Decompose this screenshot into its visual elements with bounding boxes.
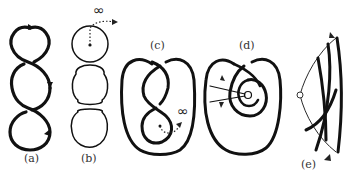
arrow-icon — [220, 75, 225, 81]
panel-e-label: (e) — [301, 158, 316, 171]
infinity-symbol: ∞ — [177, 103, 189, 119]
arrow-icon — [44, 130, 50, 136]
hollow-point-icon — [245, 92, 252, 99]
panel-d: (d) — [205, 39, 281, 154]
panel-d-label: (d) — [239, 39, 255, 52]
panel-e: (e) — [297, 32, 341, 171]
panel-a-label: (a) — [24, 152, 39, 165]
arrow-icon — [329, 32, 335, 38]
panel-a: (a) — [10, 24, 53, 165]
panel-c-label: (c) — [150, 39, 165, 52]
arrow-icon — [219, 102, 224, 108]
infinity-symbol: ∞ — [93, 2, 105, 18]
panel-c: ∞ (c) — [122, 39, 195, 155]
hollow-point-icon — [297, 92, 303, 98]
arrow-icon — [176, 122, 182, 128]
panel-b-label: (b) — [81, 152, 97, 165]
arrow-icon — [47, 82, 53, 88]
panel-b: ∞ (b) — [71, 2, 118, 165]
arrow-icon — [112, 19, 118, 25]
arrow-icon — [324, 154, 331, 161]
knot-figure: (a) ∞ (b) ∞ (c) (d) — [0, 0, 353, 178]
